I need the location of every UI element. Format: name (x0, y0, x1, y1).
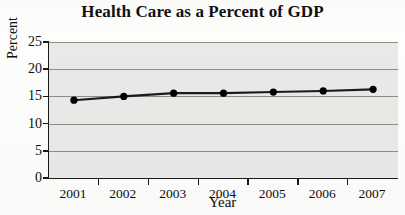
plot-area: 2001: 14.32002: 152003: 15.62004: 15.620… (48, 42, 398, 179)
x-tick-mark (297, 179, 298, 185)
y-tick-label: 15 (14, 89, 42, 103)
data-point-marker: 2006: 16 (320, 87, 327, 94)
data-point-marker: 2003: 15.6 (170, 90, 177, 97)
x-tick-mark (347, 179, 348, 185)
data-point-marker: 2001: 14.3 (70, 97, 77, 104)
y-tick-label: 10 (14, 117, 42, 131)
x-axis-title: Year (48, 194, 397, 211)
y-tick-label: 20 (14, 62, 42, 76)
data-point-marker: 2007: 16.3 (369, 86, 376, 93)
y-tick-label: 25 (14, 35, 42, 49)
chart-figure: Health Care as a Percent of GDP Percent … (0, 0, 405, 215)
chart-title: Health Care as a Percent of GDP (0, 2, 405, 22)
y-tick-label: 0 (14, 171, 42, 185)
data-point-marker: 2002: 15 (120, 93, 127, 100)
series-markers: 2001: 14.32002: 152003: 15.62004: 15.620… (70, 86, 376, 104)
x-tick-mark (148, 179, 149, 185)
data-point-marker: 2005: 15.8 (270, 88, 277, 95)
data-point-marker: 2004: 15.6 (220, 90, 227, 97)
x-tick-mark (98, 179, 99, 185)
data-series-line: 2001: 14.32002: 152003: 15.62004: 15.620… (49, 42, 398, 178)
y-tick-label: 5 (14, 144, 42, 158)
x-tick-mark (247, 179, 248, 185)
x-tick-mark (198, 179, 199, 185)
